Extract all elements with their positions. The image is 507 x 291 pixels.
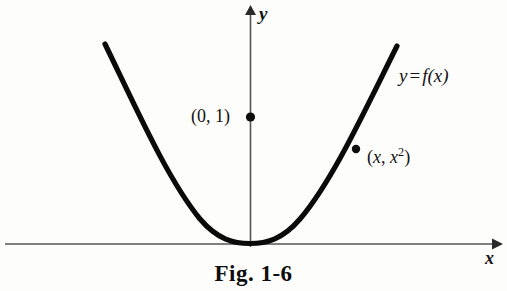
- y-intercept-label: (0, 1): [191, 107, 230, 125]
- curve-point-marker: [352, 145, 360, 153]
- function-label-equals: =: [407, 65, 422, 86]
- curve-point-var-x: x: [373, 147, 381, 167]
- function-label-rhs: f(x): [422, 65, 448, 86]
- figure-caption: Fig. 1-6: [0, 261, 507, 287]
- curve-point-var-xsq-base: x: [390, 147, 398, 167]
- parabola-plot-canvas: [0, 0, 507, 291]
- curve-point-label: (x, x2): [367, 146, 410, 166]
- figure-container: y x (0, 1) (x, x2) y=f(x) Fig. 1-6: [0, 0, 507, 291]
- function-equation-label: y=f(x): [399, 66, 449, 85]
- y-axis-arrowhead: [245, 5, 256, 15]
- y-intercept-point-marker: [246, 112, 255, 121]
- curve-point-paren-close: ): [404, 147, 410, 167]
- y-axis-label: y: [259, 4, 267, 23]
- curve-point-comma: ,: [381, 147, 390, 167]
